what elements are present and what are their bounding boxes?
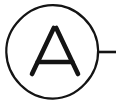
letter-a-left-stroke bbox=[32, 28, 54, 74]
letter-a-right-stroke bbox=[56, 28, 78, 74]
ammeter-symbol bbox=[0, 0, 116, 104]
meter-letter bbox=[32, 28, 78, 74]
schematic-canvas: Ammeter bbox=[0, 0, 116, 104]
meter-circle bbox=[6, 5, 98, 98]
